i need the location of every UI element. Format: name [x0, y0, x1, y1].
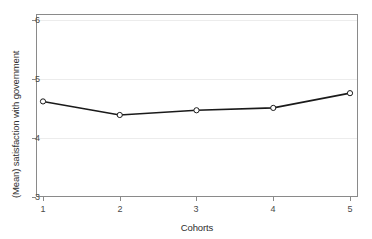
gridline-5	[37, 79, 357, 80]
x-tick-label-2: 2	[110, 205, 130, 214]
y-tick-label-6: 6	[20, 16, 40, 25]
gridline-4	[37, 138, 357, 139]
x-tick-label-1: 1	[33, 205, 53, 214]
x-tick-label-3: 3	[186, 205, 206, 214]
y-tick-label-5: 5	[20, 75, 40, 84]
gridline-6	[37, 20, 357, 21]
x-tick-mark-4	[273, 197, 274, 201]
x-tick-mark-3	[196, 197, 197, 201]
y-tick-label-4: 4	[20, 134, 40, 143]
plot-area	[36, 14, 358, 197]
y-axis-title: (Mean) satisfaction with government	[9, 0, 23, 198]
chart-figure: (Mean) satisfaction with government 6 5 …	[0, 0, 372, 239]
x-tick-label-5: 5	[340, 205, 360, 214]
x-tick-label-4: 4	[263, 205, 283, 214]
y-tick-label-3: 3	[20, 193, 40, 202]
x-tick-mark-2	[120, 197, 121, 201]
x-tick-mark-1	[43, 197, 44, 201]
x-axis-title: Cohorts	[36, 222, 358, 233]
x-tick-mark-5	[350, 197, 351, 201]
